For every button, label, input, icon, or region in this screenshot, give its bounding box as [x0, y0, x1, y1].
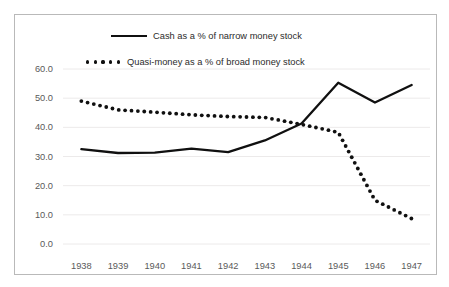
- data-point: [86, 101, 90, 105]
- data-point: [257, 115, 261, 119]
- data-point: [117, 108, 121, 112]
- data-point: [264, 116, 268, 120]
- data-point: [232, 115, 236, 119]
- x-axis-tick-label: 1947: [395, 261, 429, 271]
- chart-container: Cash as a % of narrow money stock Quasi-…: [14, 14, 437, 275]
- data-point: [149, 110, 153, 114]
- data-point: [92, 102, 96, 106]
- data-point: [238, 115, 242, 119]
- data-point: [283, 119, 287, 123]
- data-point: [251, 115, 255, 119]
- data-point: [356, 167, 360, 171]
- x-axis-tick-label: 1946: [358, 261, 392, 271]
- x-axis-tick-label: 1938: [64, 261, 98, 271]
- data-point: [333, 130, 337, 134]
- data-point: [295, 122, 299, 126]
- data-point: [206, 114, 210, 118]
- y-axis-tick-label: 60.0: [19, 64, 53, 74]
- data-point: [187, 113, 191, 117]
- y-axis-tick-label: 40.0: [19, 122, 53, 132]
- chart-svg: [15, 15, 438, 276]
- series-layer: [79, 83, 413, 221]
- data-point: [193, 113, 197, 117]
- x-axis-tick-label: 1939: [101, 261, 135, 271]
- x-axis-tick-label: 1941: [174, 261, 208, 271]
- plot-area: 0.010.020.030.040.050.060.0 193819391940…: [15, 15, 436, 274]
- data-point: [341, 138, 345, 142]
- data-point: [142, 110, 146, 114]
- data-point: [200, 113, 204, 117]
- data-point: [123, 108, 127, 112]
- data-point: [368, 189, 372, 193]
- x-axis-tick-label: 1940: [138, 261, 172, 271]
- data-point: [270, 117, 274, 121]
- data-point: [371, 195, 375, 199]
- data-point: [245, 115, 249, 119]
- data-point: [375, 199, 379, 203]
- data-point: [168, 111, 172, 115]
- data-point: [301, 123, 305, 127]
- data-point: [111, 107, 115, 111]
- data-point: [308, 124, 312, 128]
- data-point: [79, 99, 83, 103]
- data-point: [130, 109, 134, 113]
- x-axis-tick-label: 1945: [321, 261, 355, 271]
- data-point: [104, 105, 108, 109]
- data-point: [276, 118, 280, 122]
- data-point: [353, 161, 357, 165]
- data-point: [359, 172, 363, 176]
- y-axis-tick-label: 30.0: [19, 152, 53, 162]
- x-axis-tick-label: 1943: [248, 261, 282, 271]
- y-axis-tick-label: 20.0: [19, 181, 53, 191]
- data-point: [289, 120, 293, 124]
- y-axis-tick-label: 10.0: [19, 210, 53, 220]
- data-point: [344, 144, 348, 148]
- x-axis-tick-label: 1944: [285, 261, 319, 271]
- series-line-2: [79, 99, 413, 220]
- data-point: [162, 111, 166, 115]
- data-point: [320, 127, 324, 131]
- data-point: [387, 205, 391, 209]
- data-point: [314, 126, 318, 130]
- data-point: [392, 208, 396, 212]
- gridlines: [63, 69, 430, 244]
- data-point: [362, 178, 366, 182]
- data-point: [365, 183, 369, 187]
- x-axis-tick-label: 1942: [211, 261, 245, 271]
- data-point: [181, 112, 185, 116]
- data-point: [398, 211, 402, 215]
- y-axis-tick-label: 50.0: [19, 93, 53, 103]
- data-point: [327, 128, 331, 132]
- data-point: [155, 110, 159, 114]
- data-point: [213, 114, 217, 118]
- data-point: [350, 155, 354, 159]
- data-point: [347, 150, 351, 154]
- data-point: [381, 202, 385, 206]
- data-point: [98, 104, 102, 108]
- data-point: [225, 115, 229, 119]
- data-point: [219, 114, 223, 118]
- data-point: [404, 214, 408, 218]
- data-point: [409, 217, 413, 221]
- data-point: [136, 109, 140, 113]
- y-axis-tick-label: 0.0: [19, 239, 53, 249]
- data-point: [338, 133, 342, 137]
- data-point: [174, 112, 178, 116]
